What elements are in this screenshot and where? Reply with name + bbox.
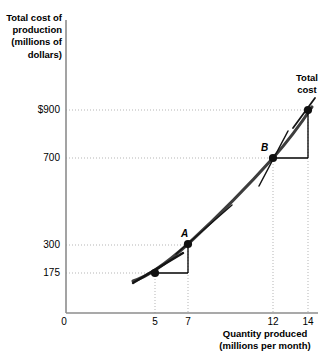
horizontal-gridlines: [66, 110, 312, 273]
tangent-line-at-q5: [133, 253, 183, 283]
x-tick-label-14: 14: [298, 316, 318, 327]
point-label-a: A: [181, 228, 188, 239]
x-axis-title-line-1: Quantity produced: [200, 328, 330, 340]
point-label-b: B: [261, 142, 268, 153]
x-tick-label-12: 12: [263, 316, 283, 327]
tangent-line-at-q14: [293, 98, 315, 128]
x-tick-label-7: 7: [178, 316, 198, 327]
total-cost-curve-label: Total cost: [286, 72, 328, 95]
y-axis-title-line-1: Total cost of: [4, 12, 62, 24]
x-tick-label-0: 0: [54, 316, 74, 327]
y-tick-label-175: 175: [16, 267, 60, 278]
data-point-b: [269, 154, 277, 162]
vertical-gridlines: [155, 110, 308, 313]
x-tick-label-5: 5: [145, 316, 165, 327]
y-axis-title-line-2: production: [4, 24, 62, 36]
data-point-q14: [304, 106, 312, 114]
x-axis-title-line-2: (millions per month): [200, 340, 330, 352]
y-tick-label-300: 300: [16, 239, 60, 250]
total-cost-curve: [133, 107, 312, 281]
y-tick-label-700: 700: [16, 152, 60, 163]
y-axis-title-line-3: (millions of: [4, 36, 62, 48]
data-point-a: [184, 240, 192, 248]
cost-curve-chart: Total cost of production (millions of do…: [0, 0, 332, 364]
data-point-q5: [151, 269, 159, 277]
y-axis-title-line-4: dollars): [4, 49, 62, 61]
y-tick-label-900: $900: [16, 104, 60, 115]
total-cost-curve-label-line-2: cost: [286, 84, 328, 96]
x-axis-title: Quantity produced (millions per month): [200, 328, 330, 352]
total-cost-curve-label-line-1: Total: [286, 72, 328, 84]
y-axis-title: Total cost of production (millions of do…: [4, 12, 62, 61]
